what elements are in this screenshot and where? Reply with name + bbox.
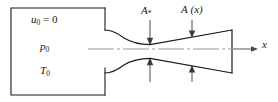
label-u-value: 0 <box>52 13 58 25</box>
throat-area-arrow-bottom <box>147 58 153 82</box>
nozzle-upper-wall <box>105 30 232 45</box>
nozzle-figure: u0 = 0 p0 T0 A* A (x) x <box>0 0 278 102</box>
label-reservoir-temperature: T0 <box>40 65 50 78</box>
label-Astar-symbol: A <box>141 4 148 16</box>
label-x-axis: x <box>262 39 267 50</box>
label-Astar-subscript: * <box>148 9 152 18</box>
label-reservoir-velocity: u0 = 0 <box>31 14 57 27</box>
local-area-arrow-top <box>189 20 195 38</box>
label-reservoir-pressure: p0 <box>40 41 49 54</box>
label-throat-area: A* <box>141 5 151 18</box>
label-Ax-argument: (x) <box>190 3 202 15</box>
reservoir-chamber-outline <box>11 8 105 95</box>
throat-area-arrow-top <box>147 20 153 45</box>
local-area-arrow-bottom <box>189 65 195 82</box>
x-axis-arrowhead <box>251 46 258 51</box>
nozzle-lower-wall <box>105 58 232 73</box>
label-p-subscript: 0 <box>46 45 50 54</box>
label-Ax-symbol: A <box>181 3 188 15</box>
label-local-area: A (x) <box>181 4 203 15</box>
label-T-subscript: 0 <box>46 69 50 78</box>
